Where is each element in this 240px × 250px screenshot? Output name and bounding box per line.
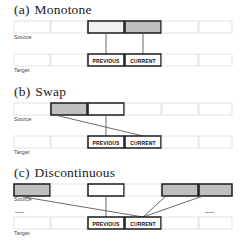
source-row-a bbox=[14, 21, 232, 33]
diagram-c bbox=[0, 163, 240, 250]
diagram-b bbox=[0, 82, 240, 172]
previous-cell-label-c: PREVIOUS bbox=[88, 221, 124, 227]
target-label-b: Target bbox=[14, 149, 30, 155]
diagram-a bbox=[0, 0, 240, 90]
ellipsis-right-c: ······ bbox=[205, 209, 214, 215]
previous-cell-label-b: PREVIOUS bbox=[88, 140, 124, 146]
source-row-b bbox=[14, 103, 232, 115]
source-row-c bbox=[14, 184, 232, 196]
panel-swap: (b)Swap bbox=[0, 82, 240, 165]
source-label-a: Source bbox=[14, 34, 32, 40]
target-label-c: Target bbox=[14, 230, 30, 236]
current-cell-label-b: CURRENT bbox=[125, 140, 161, 146]
links-c bbox=[18, 196, 203, 217]
source-label-c: Source bbox=[14, 196, 32, 202]
source-label-b: Source bbox=[14, 116, 32, 122]
ellipsis-left-c: ······ bbox=[15, 209, 24, 215]
current-cell-label-a: CURRENT bbox=[125, 58, 161, 64]
figure-canvas: (a)Monotone bbox=[0, 0, 240, 250]
panel-discontinuous: (c)Discontinuous bbox=[0, 163, 240, 250]
target-label-a: Target bbox=[14, 67, 30, 73]
previous-cell-label-a: PREVIOUS bbox=[88, 58, 124, 64]
panel-monotone: (a)Monotone bbox=[0, 0, 240, 83]
links-b bbox=[55, 115, 143, 136]
current-cell-label-c: CURRENT bbox=[125, 221, 161, 227]
links-a bbox=[106, 33, 143, 54]
